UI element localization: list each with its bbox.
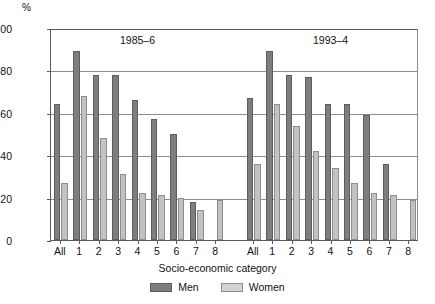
bar-men-5-p1: [151, 119, 158, 240]
men-color-swatch: [150, 283, 172, 292]
x-axis-tick-label: 4: [135, 245, 141, 257]
legend-item-women: Women: [221, 281, 285, 293]
bar-women-6-p2: [371, 193, 378, 240]
x-axis-tick-mark: [272, 241, 273, 244]
bar-men-all-p1: [54, 104, 61, 240]
x-axis-tick-mark: [331, 241, 332, 244]
y-axis-tick-mark: [47, 241, 51, 242]
x-axis-tick-mark: [60, 241, 61, 244]
bar-men-4-p2: [325, 104, 332, 240]
bar-women-3-p2: [313, 151, 320, 240]
x-axis-tick-label: 8: [405, 245, 411, 257]
x-axis-tick-mark: [253, 241, 254, 244]
bar-men-3-p2: [305, 77, 312, 240]
plot-area: [50, 29, 418, 241]
bars-layer: [51, 29, 418, 240]
bar-women-5-p1: [158, 195, 165, 240]
y-axis-tick-label: 60: [0, 108, 12, 120]
panel-label-2: 1993–4: [313, 34, 348, 46]
x-axis-tick-mark: [408, 241, 409, 244]
x-axis-tick-label: 5: [347, 245, 353, 257]
chart-figure: % 020406080100All12345678All12345678 Soc…: [0, 0, 435, 304]
bar-men-1-p2: [266, 51, 273, 240]
x-axis-tick-label: 8: [212, 245, 218, 257]
x-axis-tick-mark: [292, 241, 293, 244]
bar-women-8-p1: [217, 200, 224, 240]
bar-men-6-p2: [363, 115, 370, 240]
bar-women-7-p2: [390, 195, 397, 240]
x-axis-tick-label: All: [247, 245, 259, 257]
bar-men-1-p1: [73, 51, 80, 240]
bar-women-2-p1: [100, 138, 107, 240]
chart-legend: Men Women: [0, 281, 435, 293]
bar-women-all-p1: [61, 183, 68, 240]
y-axis-unit-label: %: [22, 2, 31, 13]
bar-men-all-p2: [247, 98, 254, 240]
x-axis-tick-mark: [138, 241, 139, 244]
x-axis-tick-mark: [176, 241, 177, 244]
bar-women-2-p2: [293, 126, 300, 240]
legend-label-women: Women: [249, 281, 285, 293]
x-axis-tick-mark: [389, 241, 390, 244]
x-axis-tick-label: 1: [76, 245, 82, 257]
x-axis-tick-label: 7: [386, 245, 392, 257]
bar-women-1-p1: [81, 96, 88, 240]
panel-label-1: 1985–6: [120, 34, 155, 46]
x-axis-tick-label: 3: [115, 245, 121, 257]
x-axis-tick-mark: [79, 241, 80, 244]
bar-women-1-p2: [274, 104, 281, 240]
women-color-swatch: [221, 283, 243, 292]
x-axis-tick-label: 7: [193, 245, 199, 257]
x-axis-tick-mark: [196, 241, 197, 244]
bar-men-6-p1: [170, 134, 177, 240]
y-axis-tick-label: 80: [0, 65, 12, 77]
x-axis-tick-label: 1: [269, 245, 275, 257]
x-axis-tick-mark: [350, 241, 351, 244]
y-axis-tick-label: 100: [0, 23, 12, 35]
x-axis-tick-label: 6: [366, 245, 372, 257]
bar-men-5-p2: [344, 104, 351, 240]
x-axis-tick-mark: [215, 241, 216, 244]
x-axis-tick-mark: [311, 241, 312, 244]
x-axis-tick-label: 2: [96, 245, 102, 257]
bar-men-7-p2: [383, 164, 390, 240]
bar-men-4-p1: [132, 100, 139, 240]
bar-women-3-p1: [120, 174, 127, 240]
bar-women-8-p2: [410, 200, 417, 240]
x-axis-title: Socio-economic category: [0, 262, 435, 274]
x-axis-tick-label: All: [54, 245, 66, 257]
bar-women-7-p1: [197, 210, 204, 240]
y-axis-tick-label: 0: [0, 235, 12, 247]
y-axis-tick-label: 20: [0, 193, 12, 205]
bar-men-2-p2: [286, 75, 293, 240]
bar-men-3-p1: [112, 75, 119, 240]
bar-men-2-p1: [93, 75, 100, 240]
x-axis-tick-label: 3: [308, 245, 314, 257]
legend-label-men: Men: [178, 281, 198, 293]
bar-women-all-p2: [254, 164, 261, 240]
x-axis-tick-mark: [369, 241, 370, 244]
bar-men-7-p1: [190, 202, 197, 240]
bar-women-5-p2: [351, 183, 358, 240]
x-axis-tick-label: 6: [173, 245, 179, 257]
x-axis-tick-label: 2: [289, 245, 295, 257]
y-axis-tick-label: 40: [0, 150, 12, 162]
x-axis-tick-mark: [118, 241, 119, 244]
x-axis-tick-label: 5: [154, 245, 160, 257]
bar-women-4-p2: [332, 168, 339, 240]
x-axis-tick-mark: [157, 241, 158, 244]
x-axis-tick-mark: [99, 241, 100, 244]
bar-women-6-p1: [178, 198, 185, 240]
legend-item-men: Men: [150, 281, 198, 293]
x-axis-tick-label: 4: [328, 245, 334, 257]
bar-women-4-p1: [139, 193, 146, 240]
